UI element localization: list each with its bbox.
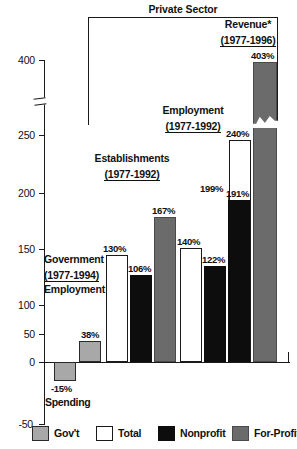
y-tick-label-250: 250 <box>5 129 35 141</box>
private-sector-label: Private Sector <box>88 3 278 15</box>
bar-label-emp-nonprofit: 122% <box>202 254 225 265</box>
y-tick-400 <box>39 60 45 61</box>
bar-rev-forprofit <box>253 62 277 362</box>
bar-label-gov-spending: -15% <box>51 383 72 394</box>
group-label-establishments: Establishments (1977-1992) <box>86 152 178 182</box>
bar-label-rev-total: 240% <box>226 128 249 139</box>
bar-label-est-forprofit: 167% <box>152 205 175 216</box>
y-tick-label-400: 400 <box>5 54 35 66</box>
chart-legend: Gov't Total Nonprofit For-Profit <box>32 424 290 444</box>
x-axis-right-tick <box>288 352 289 363</box>
legend-swatch-govt <box>32 426 49 441</box>
y-tick-label-200: 200 <box>5 187 35 199</box>
y-tick-label-100: 100 <box>5 299 35 311</box>
bar-est-nonprofit <box>130 275 152 362</box>
legend-swatch-nonprofit <box>158 426 175 441</box>
legend-item-nonprofit: Nonprofit <box>158 424 225 442</box>
bar-gov-employment <box>79 341 101 362</box>
group-label-revenue: Revenue* (1977-1996) <box>206 18 290 48</box>
group-establishments-line1: Establishments <box>86 152 178 164</box>
group-revenue-line2: (1977-1996) <box>220 34 275 47</box>
zero-baseline <box>45 362 290 363</box>
bar-gov-spending <box>54 362 76 381</box>
y-tick-200 <box>39 193 45 194</box>
bar-emp-total <box>180 248 202 362</box>
group-establishments-line2: (1977-1992) <box>104 168 159 181</box>
legend-item-total: Total <box>96 424 141 442</box>
group-employment-line2: (1977-1992) <box>165 120 220 133</box>
bar-emp-nonprofit <box>204 266 226 362</box>
y-tick-100 <box>39 305 45 306</box>
y-tick-label-50: 50 <box>5 328 35 340</box>
bar-label-emp-total: 140% <box>177 236 200 247</box>
y-tick-50 <box>39 334 45 335</box>
legend-item-forprofit: For-Profit <box>232 424 297 442</box>
legend-item-govt: Gov't <box>32 424 79 442</box>
chart-canvas: Private Sector 400 250 200 150 100 50 0 … <box>0 0 297 449</box>
y-tick-150 <box>39 249 45 250</box>
group-government-line2: (1977-1994) <box>44 269 99 282</box>
legend-label-total: Total <box>118 427 141 439</box>
bar-break-squiggle-icon <box>252 116 278 130</box>
legend-label-nonprofit: Nonprofit <box>180 427 225 439</box>
y-tick-label-minus50: -50 <box>3 418 33 430</box>
y-axis-line <box>44 60 45 424</box>
bar-label-rev-forprofit: 403% <box>251 50 274 61</box>
legend-label-govt: Gov't <box>54 427 79 439</box>
legend-label-forprofit: For-Profit <box>254 427 297 439</box>
bar-label-emp-forprofit: 199% <box>200 183 223 194</box>
bar-est-forprofit <box>154 217 176 362</box>
bar-label-rev-nonprofit: 191% <box>226 188 249 199</box>
y-tick-label-150: 150 <box>5 243 35 255</box>
bar-label-est-total: 130% <box>103 243 126 254</box>
bar-rev-nonprofit <box>228 200 250 362</box>
y-tick-label-0: 0 <box>5 356 35 368</box>
bar-label-est-nonprofit: 106% <box>128 263 151 274</box>
legend-swatch-total <box>96 426 113 441</box>
group-employment-line1: Employment <box>152 104 234 116</box>
legend-swatch-forprofit <box>232 426 249 441</box>
bar-sublabel-gov-spending: Spending <box>45 396 90 408</box>
group-revenue-line1: Revenue* <box>206 18 290 30</box>
bar-label-gov-employment: 38% <box>81 329 99 340</box>
bar-est-total <box>106 255 128 362</box>
group-label-employment: Employment (1977-1992) <box>152 104 234 134</box>
y-tick-250 <box>39 135 45 136</box>
